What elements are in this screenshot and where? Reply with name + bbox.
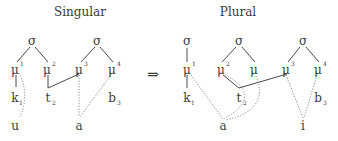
svg-text:t: t: [46, 91, 51, 105]
svg-text:b: b: [314, 91, 322, 105]
svg-text:2: 2: [243, 99, 247, 106]
svg-text:3: 3: [117, 99, 121, 106]
svg-text:μ: μ: [250, 63, 258, 77]
svg-text:μ: μ: [11, 63, 19, 77]
singular-solid-links: [16, 47, 113, 88]
singular-mora-4: μ 4: [108, 60, 121, 77]
svg-text:2: 2: [226, 60, 230, 67]
plural-consonant-b3: b 3: [314, 91, 327, 106]
svg-text:μ: μ: [217, 63, 225, 77]
svg-text:μ: μ: [43, 63, 51, 77]
svg-text:3: 3: [323, 99, 327, 106]
plural-consonant-k1: k 1: [183, 91, 194, 106]
singular-mora-2: μ 2: [43, 60, 56, 77]
svg-text:3: 3: [291, 60, 295, 67]
singular-mora-3: μ 3: [75, 60, 88, 77]
singular-consonant-t2: t 2: [46, 91, 56, 106]
svg-text:2: 2: [52, 60, 56, 67]
singular-sigma-2: σ: [93, 34, 101, 48]
svg-text:μ: μ: [183, 63, 191, 77]
plural-sigma-3: σ: [299, 34, 307, 48]
svg-text:μ: μ: [314, 63, 322, 77]
plural-mora-3: μ 3: [282, 60, 295, 77]
plural-mora-1: μ 1: [183, 60, 196, 77]
svg-text:4: 4: [323, 60, 327, 67]
plural-sigma-2: σ: [235, 34, 243, 48]
plural-sigma-1: σ: [183, 34, 191, 48]
derivation-arrow-icon: ⇒: [147, 66, 159, 82]
svg-text:1: 1: [192, 60, 196, 67]
singular-title: Singular: [54, 5, 106, 19]
singular-panel: Singular σ σ μ 1 μ 2 μ: [11, 5, 121, 133]
singular-vowel-a: a: [75, 119, 82, 133]
svg-text:1: 1: [20, 60, 24, 67]
svg-text:μ: μ: [75, 63, 83, 77]
plural-mora-epenthetic: μ: [250, 63, 258, 77]
singular-dotted-links: [19, 73, 111, 117]
plural-panel: Plural σ σ σ μ 1 μ 2: [183, 5, 327, 133]
singular-mora-1: μ 1: [11, 60, 24, 77]
svg-text:1: 1: [191, 99, 195, 106]
svg-text:3: 3: [84, 60, 88, 67]
prosodic-diagram: Singular σ σ μ 1 μ 2 μ: [0, 0, 338, 141]
plural-vowel-a: a: [219, 119, 226, 133]
plural-mora-4: μ 4: [314, 60, 327, 77]
svg-text:1: 1: [19, 99, 23, 106]
plural-dotted-links: [191, 75, 317, 120]
svg-text:4: 4: [117, 60, 121, 67]
svg-text:μ: μ: [282, 63, 290, 77]
plural-mora-2: μ 2: [217, 60, 230, 77]
svg-text:2: 2: [52, 99, 56, 106]
singular-vowel-u: u: [11, 119, 19, 133]
singular-sigma-1: σ: [28, 34, 36, 48]
svg-text:t: t: [237, 91, 242, 105]
plural-title: Plural: [220, 5, 257, 19]
svg-text:b: b: [108, 91, 116, 105]
singular-consonant-k1: k 1: [11, 91, 22, 106]
plural-vowel-i: i: [301, 119, 305, 133]
svg-text:μ: μ: [108, 63, 116, 77]
plural-consonant-t2: t 2: [237, 91, 247, 106]
singular-consonant-b3: b 3: [108, 91, 121, 106]
